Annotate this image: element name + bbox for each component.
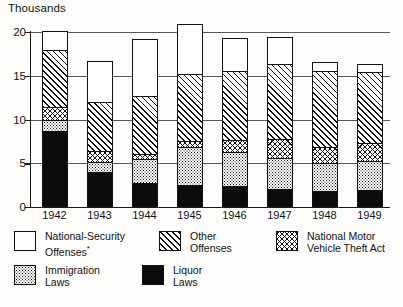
bar-segment-1946-white[interactable] bbox=[222, 38, 248, 71]
x-tick-label-1947: 1947 bbox=[258, 209, 302, 221]
bar-segment-1948-white[interactable] bbox=[312, 62, 338, 72]
bar-segment-1946-crosshatch[interactable] bbox=[222, 140, 248, 152]
chart-figure: Thousands 05101520 194219431944194519461… bbox=[0, 0, 403, 307]
bar-segment-1949-crosshatch[interactable] bbox=[357, 143, 383, 161]
bar-segment-1945-crosshatch[interactable] bbox=[177, 141, 203, 147]
x-tick-label-1942: 1942 bbox=[33, 209, 77, 221]
x-tick-label-1946: 1946 bbox=[213, 209, 257, 221]
bar-segment-1942-diagonal[interactable] bbox=[42, 50, 68, 108]
bar-segment-1945-solid-black[interactable] bbox=[177, 185, 203, 207]
bar-segment-1947-white[interactable] bbox=[267, 37, 293, 64]
bar-segment-1943-solid-black[interactable] bbox=[87, 172, 113, 207]
bar-segment-1945-stipple[interactable] bbox=[177, 147, 203, 186]
y-tick-label-10: 10 bbox=[2, 114, 26, 126]
legend-footnote-marker: * bbox=[87, 244, 90, 253]
legend-item-stipple[interactable]: Immigration Laws bbox=[14, 265, 100, 288]
x-tick-label-1944: 1944 bbox=[123, 209, 167, 221]
y-tickmark-5 bbox=[25, 163, 31, 164]
bar-segment-1949-stipple[interactable] bbox=[357, 161, 383, 190]
legend-item-white[interactable]: National-Security Offenses* bbox=[14, 231, 125, 258]
legend-swatch-crosshatch bbox=[276, 231, 298, 251]
bar-segment-1947-crosshatch[interactable] bbox=[267, 139, 293, 158]
bar-segment-1945-diagonal[interactable] bbox=[177, 74, 203, 141]
legend-label: Other Offenses bbox=[190, 231, 232, 254]
y-tickmark-20 bbox=[25, 32, 31, 33]
x-axis-tick-labels: 19421943194419451946194719481949 bbox=[0, 209, 403, 227]
bar-segment-1948-crosshatch[interactable] bbox=[312, 147, 338, 164]
bar-segment-1949-diagonal[interactable] bbox=[357, 72, 383, 143]
legend-swatch-diagonal bbox=[159, 231, 181, 251]
legend-label: National Motor Vehicle Theft Act bbox=[307, 231, 385, 254]
bar-segment-1946-solid-black[interactable] bbox=[222, 186, 248, 207]
bar-segment-1944-diagonal[interactable] bbox=[132, 96, 158, 154]
bar-segment-1944-white[interactable] bbox=[132, 39, 158, 96]
bar-segment-1948-diagonal[interactable] bbox=[312, 71, 338, 146]
x-tick-label-1945: 1945 bbox=[168, 209, 212, 221]
gridline-20 bbox=[30, 32, 390, 33]
bar-segment-1942-white[interactable] bbox=[42, 31, 68, 49]
legend-swatch-solid-black bbox=[142, 265, 164, 285]
bar-segment-1949-solid-black[interactable] bbox=[357, 190, 383, 208]
bar-segment-1944-solid-black[interactable] bbox=[132, 183, 158, 208]
bar-segment-1942-solid-black[interactable] bbox=[42, 131, 68, 207]
bar-segment-1943-stipple[interactable] bbox=[87, 162, 113, 173]
bar-segment-1943-crosshatch[interactable] bbox=[87, 151, 113, 162]
x-tick-label-1948: 1948 bbox=[303, 209, 347, 221]
bar-segment-1943-white[interactable] bbox=[87, 61, 113, 102]
bar-segment-1946-diagonal[interactable] bbox=[222, 71, 248, 139]
bar-segment-1945-white[interactable] bbox=[177, 24, 203, 74]
x-tick-label-1949: 1949 bbox=[348, 209, 392, 221]
legend-swatch-stipple bbox=[14, 265, 36, 285]
plot-area bbox=[30, 32, 390, 207]
y-tick-label-20: 20 bbox=[2, 26, 26, 38]
x-tick-label-1943: 1943 bbox=[78, 209, 122, 221]
bar-segment-1947-stipple[interactable] bbox=[267, 158, 293, 189]
y-tickmark-10 bbox=[25, 120, 31, 121]
legend-item-crosshatch[interactable]: National Motor Vehicle Theft Act bbox=[276, 231, 385, 254]
bar-segment-1944-crosshatch[interactable] bbox=[132, 154, 158, 159]
legend-item-solid-black[interactable]: Liquor Laws bbox=[142, 265, 202, 288]
bar-segment-1946-stipple[interactable] bbox=[222, 152, 248, 186]
bar-segment-1947-diagonal[interactable] bbox=[267, 64, 293, 138]
legend-label: Immigration Laws bbox=[45, 265, 100, 288]
bar-segment-1944-stipple[interactable] bbox=[132, 159, 158, 183]
legend-label: National-Security Offenses* bbox=[45, 231, 125, 258]
bar-segment-1949-white[interactable] bbox=[357, 64, 383, 73]
legend-swatch-white bbox=[14, 231, 36, 251]
legend-item-diagonal[interactable]: Other Offenses bbox=[159, 231, 232, 254]
bar-segment-1942-crosshatch[interactable] bbox=[42, 107, 68, 120]
bar-segment-1942-stipple[interactable] bbox=[42, 120, 68, 131]
legend-label: Liquor Laws bbox=[173, 265, 202, 288]
bar-segment-1948-stipple[interactable] bbox=[312, 163, 338, 191]
y-axis-tick-labels: 05101520 bbox=[0, 0, 26, 307]
bar-segment-1948-solid-black[interactable] bbox=[312, 191, 338, 207]
y-tickmark-15 bbox=[25, 76, 31, 77]
y-tick-label-15: 15 bbox=[2, 70, 26, 82]
bar-segment-1943-diagonal[interactable] bbox=[87, 102, 113, 151]
y-tick-label-5: 5 bbox=[2, 157, 26, 169]
bar-segment-1947-solid-black[interactable] bbox=[267, 189, 293, 207]
